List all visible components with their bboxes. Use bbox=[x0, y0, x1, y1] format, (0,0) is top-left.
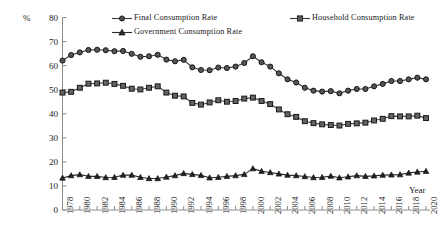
data-point-marker bbox=[216, 98, 221, 103]
data-point-marker bbox=[77, 85, 82, 90]
data-point-marker bbox=[60, 58, 65, 63]
data-point-marker bbox=[129, 51, 134, 56]
data-point-marker bbox=[328, 123, 333, 128]
data-point-marker bbox=[112, 81, 117, 86]
data-point-marker bbox=[77, 50, 82, 55]
data-point-marker bbox=[423, 77, 428, 82]
data-point-marker bbox=[424, 116, 429, 121]
chart-figure: Final Consumption Rate Household Consump… bbox=[0, 0, 448, 252]
data-point-marker bbox=[138, 54, 143, 59]
data-point-marker bbox=[285, 112, 290, 117]
data-point-marker bbox=[173, 93, 178, 98]
data-point-marker bbox=[86, 47, 91, 52]
data-point-marker bbox=[242, 60, 247, 65]
data-point-marker bbox=[103, 48, 108, 53]
data-point-marker bbox=[69, 52, 74, 57]
data-point-marker bbox=[346, 88, 351, 93]
data-point-marker bbox=[354, 86, 359, 91]
data-point-marker bbox=[198, 67, 203, 72]
data-point-marker bbox=[250, 95, 255, 100]
data-point-marker bbox=[121, 83, 126, 88]
chart-plot-area bbox=[0, 0, 448, 252]
data-point-marker bbox=[155, 52, 160, 57]
data-point-marker bbox=[372, 84, 377, 89]
data-point-marker bbox=[346, 121, 351, 126]
data-point-marker bbox=[354, 121, 359, 126]
data-point-marker bbox=[181, 94, 186, 99]
data-point-marker bbox=[294, 114, 299, 119]
y-axis-ticks bbox=[63, 18, 67, 211]
data-point-marker bbox=[380, 81, 385, 86]
data-point-marker bbox=[95, 47, 100, 52]
data-point-marker bbox=[199, 102, 204, 107]
data-point-marker bbox=[129, 86, 134, 91]
series-circle bbox=[60, 47, 429, 96]
data-point-marker bbox=[164, 90, 169, 95]
data-point-marker bbox=[389, 78, 394, 83]
data-point-marker bbox=[302, 85, 307, 90]
data-point-marker bbox=[311, 121, 316, 126]
data-point-marker bbox=[337, 91, 342, 96]
data-point-marker bbox=[328, 89, 333, 94]
data-point-marker bbox=[406, 114, 411, 119]
data-point-marker bbox=[259, 99, 264, 104]
data-point-marker bbox=[380, 116, 385, 121]
data-point-marker bbox=[415, 113, 420, 118]
data-point-marker bbox=[86, 81, 91, 86]
data-point-marker bbox=[181, 57, 186, 62]
data-point-marker bbox=[138, 87, 143, 92]
data-point-marker bbox=[372, 118, 377, 123]
axis-lines bbox=[63, 18, 431, 211]
data-point-marker bbox=[224, 99, 229, 104]
data-point-marker bbox=[112, 49, 117, 54]
data-point-marker bbox=[60, 90, 65, 95]
data-point-marker bbox=[69, 89, 74, 94]
data-point-marker bbox=[389, 114, 394, 119]
data-point-marker bbox=[207, 68, 212, 73]
data-point-marker bbox=[121, 48, 126, 53]
series-triangle bbox=[60, 166, 429, 181]
data-point-marker bbox=[302, 119, 307, 124]
data-point-marker bbox=[268, 102, 273, 107]
data-point-marker bbox=[285, 77, 290, 82]
data-point-marker bbox=[250, 166, 256, 171]
data-point-marker bbox=[95, 81, 100, 86]
data-point-marker bbox=[224, 65, 229, 70]
data-point-marker bbox=[242, 96, 247, 101]
data-point-marker bbox=[190, 100, 195, 105]
data-point-marker bbox=[320, 89, 325, 94]
data-point-marker bbox=[216, 65, 221, 70]
data-point-marker bbox=[311, 88, 316, 93]
data-point-marker bbox=[207, 100, 212, 105]
data-point-marker bbox=[276, 71, 281, 76]
data-point-marker bbox=[259, 60, 264, 65]
data-point-marker bbox=[337, 123, 342, 128]
data-point-marker bbox=[103, 80, 108, 85]
data-point-marker bbox=[398, 114, 403, 119]
data-point-marker bbox=[406, 77, 411, 82]
data-point-marker bbox=[155, 84, 160, 89]
data-point-marker bbox=[294, 80, 299, 85]
data-point-marker bbox=[363, 120, 368, 125]
data-point-marker bbox=[172, 59, 177, 64]
data-point-marker bbox=[233, 99, 238, 104]
data-point-marker bbox=[276, 107, 281, 112]
data-point-marker bbox=[328, 173, 334, 178]
data-point-marker bbox=[241, 171, 247, 176]
data-point-marker bbox=[147, 85, 152, 90]
data-point-marker bbox=[415, 75, 420, 80]
data-point-marker bbox=[147, 54, 152, 59]
data-point-marker bbox=[397, 78, 402, 83]
data-point-marker bbox=[250, 54, 255, 59]
data-point-marker bbox=[190, 65, 195, 70]
data-point-marker bbox=[233, 64, 238, 69]
x-axis-ticks bbox=[63, 206, 427, 210]
data-point-marker bbox=[268, 64, 273, 69]
data-point-marker bbox=[363, 86, 368, 91]
data-point-marker bbox=[164, 57, 169, 62]
data-point-marker bbox=[320, 122, 325, 127]
